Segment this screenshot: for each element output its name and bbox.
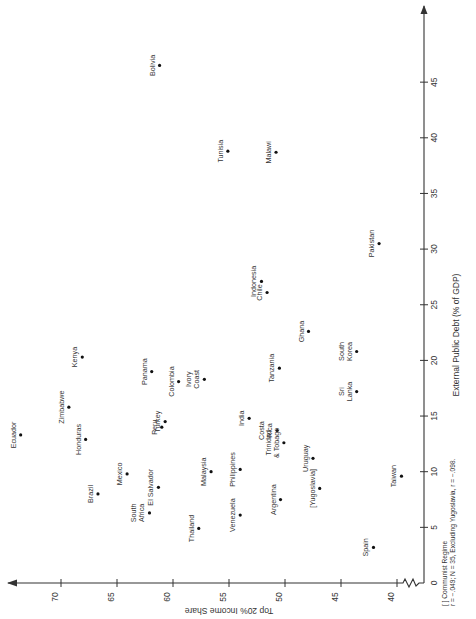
data-point: Spain	[361, 538, 375, 556]
data-point: Malawi	[264, 141, 278, 164]
point-marker	[160, 426, 163, 429]
point-label: Uruguay	[301, 444, 310, 472]
point-marker	[311, 457, 314, 460]
data-point: IvoryCoast	[184, 370, 206, 389]
data-point: Trinidad& Tobago	[264, 428, 286, 458]
data-point: India	[237, 410, 251, 426]
income-tick-label: 60	[162, 592, 172, 602]
point-marker	[148, 511, 151, 514]
data-point: Tunisia	[216, 140, 230, 163]
data-point: Kenya	[70, 347, 84, 367]
point-label: Zimbabwe	[57, 391, 66, 424]
point-marker	[377, 242, 380, 245]
point-marker	[203, 378, 206, 381]
income-tick-label: 40	[386, 592, 396, 602]
debt-tick-label: 5	[429, 525, 439, 530]
point-label: Ecuador	[9, 421, 18, 448]
point-label: Philippines	[228, 452, 237, 487]
data-point: Ghana	[297, 321, 311, 343]
data-point: Argentina	[269, 484, 283, 515]
point-marker	[239, 514, 242, 517]
y-axis-title: Top 20% Income Share	[185, 606, 274, 616]
point-label: Africa	[137, 504, 146, 522]
point-label: Panama	[140, 358, 149, 385]
data-point: El Salvador	[146, 468, 160, 505]
point-label: Taiwan	[389, 465, 398, 487]
point-marker	[239, 468, 242, 471]
point-label: Pakistan	[367, 230, 376, 258]
debt-tick-label: 30	[429, 244, 439, 254]
point-label: Coast	[192, 370, 201, 389]
debt-tick-label: 20	[429, 355, 439, 365]
point-marker	[150, 370, 153, 373]
point-marker	[355, 350, 358, 353]
point-label: Korea	[345, 342, 354, 361]
data-point: Malaysia	[199, 458, 213, 486]
note-correlation: r = −.049; N = 35, Excluding Yugoslavia,…	[449, 458, 457, 606]
point-marker	[226, 150, 229, 153]
data-point: Taiwan	[389, 465, 403, 487]
point-marker	[197, 527, 200, 530]
income-tick-label: 70	[50, 592, 60, 602]
point-marker	[19, 433, 22, 436]
origin-label: 0	[429, 580, 439, 585]
point-label: El Salvador	[146, 468, 155, 505]
point-label: & Tobago	[272, 428, 281, 458]
income-tick-label: 45	[330, 592, 340, 602]
point-marker	[318, 487, 321, 490]
point-marker	[67, 406, 70, 409]
income-tick-label: 50	[274, 592, 284, 602]
axis-break-icon	[398, 579, 424, 587]
point-marker	[84, 438, 87, 441]
point-label: Honduras	[74, 423, 83, 455]
income-tick-label: 55	[218, 592, 228, 602]
annotations: [ ] Communist Regime r = −.049; N = 35, …	[185, 273, 461, 616]
point-marker	[355, 390, 358, 393]
point-marker	[248, 417, 251, 420]
data-point: Panama	[140, 358, 154, 385]
data-point: [Yugoslavia]	[308, 469, 322, 508]
point-label: Tanzania	[267, 354, 276, 383]
debt-tick-label: 35	[429, 188, 439, 198]
point-label: India	[237, 410, 246, 426]
point-marker	[177, 380, 180, 383]
income-tick-label: 65	[106, 592, 116, 602]
data-point: SouthKorea	[337, 342, 359, 361]
debt-tick-label: 25	[429, 300, 439, 310]
data-point: Chile	[255, 284, 269, 300]
data-point: Philippines	[228, 452, 242, 487]
point-label: Chile	[255, 284, 264, 300]
data-point: Pakistan	[367, 230, 381, 258]
point-marker	[157, 486, 160, 489]
data-point: Ecuador	[9, 421, 23, 448]
note-communist-regime: [ ] Communist Regime	[441, 540, 449, 606]
debt-tick-label: 45	[429, 77, 439, 87]
point-marker	[96, 492, 99, 495]
data-points: BoliviaTunisiaMalawiPakistanIndonesiaChi…	[9, 55, 403, 557]
point-label: Lanka	[345, 382, 354, 402]
point-marker	[81, 355, 84, 358]
point-label: Spain	[361, 538, 370, 556]
point-label: Argentina	[269, 484, 278, 515]
debt-tick-label: 40	[429, 133, 439, 143]
arrow-up-icon	[421, 5, 428, 14]
data-point: Brazil	[86, 485, 100, 503]
scatter-chart: 51015202530354045040455055606570 Bolivia…	[0, 0, 476, 619]
axes: 51015202530354045040455055606570	[7, 5, 439, 602]
debt-tick-label: 10	[429, 467, 439, 477]
point-label: Kenya	[70, 347, 79, 367]
point-marker	[279, 498, 282, 501]
point-label: Colombia	[167, 366, 176, 396]
debt-tick-label: 15	[429, 411, 439, 421]
point-label: Peru	[150, 420, 159, 435]
point-marker	[125, 472, 128, 475]
point-label: [Yugoslavia]	[308, 469, 317, 508]
point-marker	[400, 475, 403, 478]
point-label: Brazil	[86, 485, 95, 503]
data-point: Bolivia	[148, 55, 162, 76]
point-label: Malaysia	[199, 458, 208, 486]
data-point: Tanzania	[267, 354, 281, 383]
point-label: Ghana	[297, 321, 306, 343]
data-point: SriLanka	[337, 382, 359, 402]
point-marker	[164, 420, 167, 423]
